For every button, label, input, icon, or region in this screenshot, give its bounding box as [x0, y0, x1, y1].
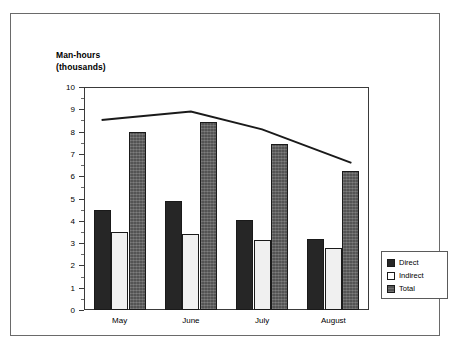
bar-direct-july [236, 220, 253, 310]
bar-indirect-june [182, 234, 199, 310]
legend-swatch-total-icon [387, 285, 395, 293]
legend-swatch-indirect-icon [387, 272, 395, 280]
legend-item-indirect[interactable]: Indirect [387, 269, 447, 282]
x-axis-tick-label: June [182, 316, 199, 325]
legend-swatch-direct-icon [387, 259, 395, 267]
bar-total-july [271, 144, 288, 310]
bar-indirect-may [111, 232, 128, 310]
legend-item-label: Total [399, 284, 415, 293]
legend-item-label: Direct [399, 258, 419, 267]
bar-indirect-july [254, 240, 271, 310]
x-axis-tick-label: July [255, 316, 269, 325]
chart-page: Man-hours(thousands) 012345678910 MayJun… [0, 0, 452, 349]
bar-indirect-august [325, 248, 342, 310]
legend-item-label: Indirect [399, 271, 424, 280]
chart-legend: DirectIndirectTotal [381, 251, 448, 299]
bar-direct-may [94, 210, 111, 310]
x-axis-tick-label: May [112, 316, 127, 325]
legend-item-direct[interactable]: Direct [387, 256, 447, 269]
document-frame: Man-hours(thousands) 012345678910 MayJun… [10, 13, 440, 336]
bar-direct-june [165, 201, 182, 310]
x-axis-tick-label: August [321, 316, 346, 325]
bar-total-august [342, 171, 359, 310]
bar-direct-august [307, 239, 324, 310]
bar-total-may [129, 132, 146, 310]
legend-item-total[interactable]: Total [387, 282, 447, 295]
bar-total-june [200, 122, 217, 310]
